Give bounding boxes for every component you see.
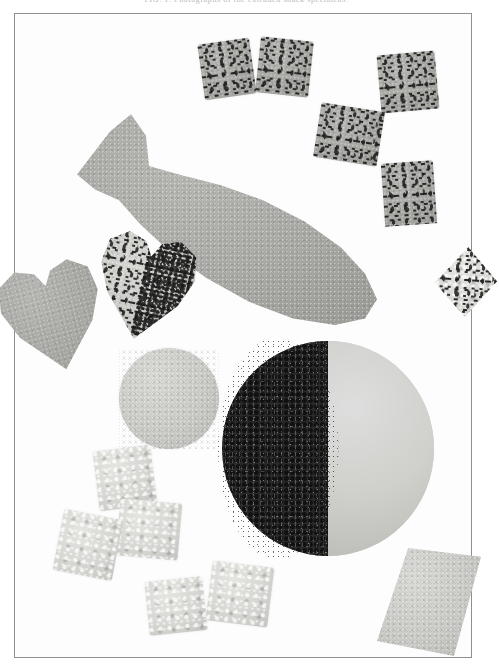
dark-inclusion-flecks: [433, 245, 499, 319]
crystalline-cube: [53, 509, 124, 581]
surface-texture: [377, 51, 440, 114]
rhombus-shaped-specimen: [377, 548, 481, 656]
surface-texture: [206, 560, 275, 627]
speckled-cube: [381, 160, 437, 226]
diamond-shaped-specimen: [433, 245, 499, 319]
speckled-cube: [313, 102, 385, 166]
surface-texture: [119, 348, 219, 449]
crystalline-cube: [116, 498, 183, 560]
surface-texture: [116, 498, 183, 560]
surface-texture: [144, 576, 207, 636]
speckled-cube: [255, 36, 314, 97]
surface-texture: [381, 160, 437, 226]
dark-inclusion-flecks: [255, 36, 314, 97]
seaweed-edge: [316, 341, 328, 556]
surface-texture: [377, 548, 481, 656]
speckled-cube: [197, 38, 256, 101]
surface-texture: [313, 102, 385, 166]
seaweed-texture: [222, 341, 328, 556]
crystalline-cube: [206, 560, 275, 627]
sphere-dark-half: [222, 341, 328, 556]
dark-inclusion-flecks: [381, 160, 437, 226]
round-disc-specimen: [119, 348, 219, 449]
surface-texture: [197, 38, 256, 101]
figure-caption: FIG. 1. Photographs of the extruded snac…: [0, 0, 493, 4]
half-coated-sphere-specimen: [222, 341, 434, 556]
heart-shaped-specimen: [0, 250, 117, 382]
surface-texture: [255, 36, 314, 97]
surface-texture: [53, 509, 124, 581]
crystalline-cube: [144, 576, 207, 636]
plate-content: [15, 14, 471, 657]
surface-texture: [433, 245, 499, 319]
dark-inclusion-flecks: [197, 38, 256, 101]
figure-caption-strip: FIG. 1. Photographs of the extruded snac…: [0, 0, 493, 9]
dark-inclusion-flecks: [377, 51, 440, 114]
surface-texture: [0, 250, 117, 382]
speckled-cube: [377, 51, 440, 114]
plate-frame: [14, 13, 472, 658]
dark-inclusion-flecks: [313, 102, 385, 166]
